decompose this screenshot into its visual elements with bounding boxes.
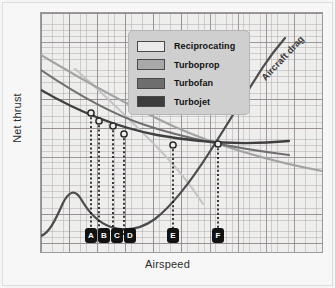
marker-point-b <box>96 118 102 124</box>
marker-tag-c: C <box>111 228 123 243</box>
plot-area: Aircraft drag Reciprocating Turboprop Tu… <box>40 12 323 253</box>
marker-tag-a: A <box>85 228 97 243</box>
legend-swatch-turbofan <box>137 78 165 89</box>
legend-item-turbojet: Turbojet <box>137 93 242 112</box>
legend-item-turbofan: Turbofan <box>137 74 242 93</box>
marker-point-c <box>110 123 116 129</box>
marker-point-d <box>121 131 127 137</box>
marker-tag-f: F <box>212 228 224 243</box>
chart-figure: Aircraft drag Reciprocating Turboprop Tu… <box>0 0 335 288</box>
y-axis-title: Net thrust <box>11 88 23 148</box>
legend-label-turbofan: Turbofan <box>174 78 213 88</box>
legend-item-reciprocating: Reciprocating <box>137 37 242 56</box>
marker-tag-e: E <box>167 228 179 243</box>
drop-lines <box>91 113 218 235</box>
x-axis-title: Airspeed <box>0 258 335 270</box>
legend-swatch-reciprocating <box>137 41 165 52</box>
legend-label-turbojet: Turbojet <box>174 97 210 107</box>
legend-label-reciprocating: Reciprocating <box>174 41 235 51</box>
legend-swatch-turbojet <box>137 96 165 107</box>
legend-item-turboprop: Turboprop <box>137 56 242 75</box>
marker-tag-b: B <box>98 228 110 243</box>
legend-swatch-turboprop <box>137 59 165 70</box>
marker-point-f <box>215 141 221 147</box>
marker-tag-d: D <box>124 228 136 243</box>
legend-box: Reciprocating Turboprop Turbofan Turboje… <box>128 30 250 115</box>
marker-point-e <box>170 142 176 148</box>
legend-label-turboprop: Turboprop <box>174 60 220 70</box>
marker-point-a <box>88 110 94 116</box>
